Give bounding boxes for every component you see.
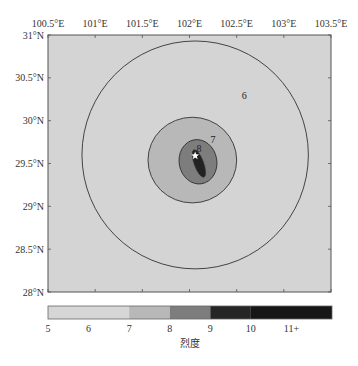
colorbar-tick-label: 11+ xyxy=(284,323,300,334)
colorbar-tick-label: 5 xyxy=(46,323,51,334)
y-tick-label: 29°N xyxy=(23,201,44,212)
y-tick-label: 31°N xyxy=(23,30,44,41)
x-tick-label: 101°E xyxy=(83,18,108,29)
y-tick-label: 28°N xyxy=(23,287,44,298)
colorbar-tick-label: 7 xyxy=(127,323,132,334)
contour-label-8: 8 xyxy=(196,143,201,154)
x-tick-label: 102°E xyxy=(177,18,202,29)
colorbar-segment xyxy=(48,306,129,319)
colorbar-title: 烈度 xyxy=(180,337,200,349)
contour-label-6: 6 xyxy=(242,90,247,101)
y-tick-label: 30.5°N xyxy=(15,72,44,83)
contour-label-7: 7 xyxy=(211,134,216,145)
x-tick-label: 102.5°E xyxy=(220,18,253,29)
colorbar: 567891011+ 烈度 xyxy=(46,306,333,349)
y-tick-label: 30°N xyxy=(23,115,44,126)
colorbar-segments xyxy=(48,306,332,319)
y-tick-label: 28.5°N xyxy=(15,244,44,255)
map-area: 678 xyxy=(48,35,331,292)
intensity-map-figure: 678 100.5°E101°E101.5°E102°E102.5°E103°E… xyxy=(0,0,358,366)
x-tick-label: 101.5°E xyxy=(126,18,159,29)
colorbar-tick-label: 6 xyxy=(86,323,91,334)
colorbar-ticks: 567891011+ xyxy=(46,323,300,334)
colorbar-segment xyxy=(210,306,251,319)
colorbar-tick-label: 10 xyxy=(246,323,256,334)
colorbar-segment xyxy=(129,306,170,319)
x-tick-label: 100.5°E xyxy=(32,18,65,29)
colorbar-segment xyxy=(170,306,211,319)
x-tick-label: 103°E xyxy=(271,18,296,29)
x-tick-label: 103.5°E xyxy=(315,18,348,29)
colorbar-tick-label: 9 xyxy=(208,323,213,334)
colorbar-segment xyxy=(251,306,332,319)
colorbar-tick-label: 8 xyxy=(167,323,172,334)
y-tick-label: 29.5°N xyxy=(15,158,44,169)
